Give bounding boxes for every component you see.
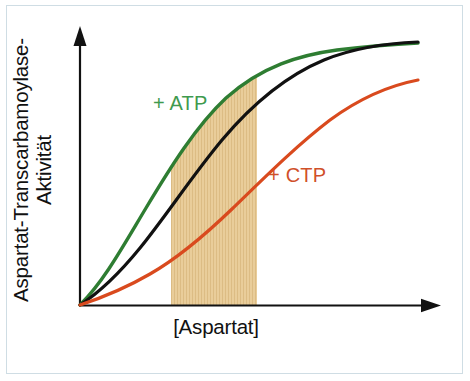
axes-group: [74, 26, 442, 312]
y-axis-label-line-1: Aspartat-Transcarbamoylase-: [9, 38, 32, 302]
y-axis-arrowhead: [74, 26, 87, 46]
annotation-plus-atp: + ATP: [153, 92, 208, 114]
x-axis-arrowhead: [421, 299, 441, 312]
x-axis-label: [Aspartat]: [173, 315, 259, 338]
annotation-plus-ctp: + CTP: [268, 164, 326, 186]
enzyme-kinetics-plot: + ATP + CTP [Aspartat] Aspartat-Transcar…: [0, 0, 470, 381]
figure-root: + ATP + CTP [Aspartat] Aspartat-Transcar…: [0, 0, 470, 381]
y-axis-label: Aspartat-Transcarbamoylase- Aktivität: [9, 38, 55, 302]
y-axis-label-line-2: Aktivität: [32, 135, 55, 205]
